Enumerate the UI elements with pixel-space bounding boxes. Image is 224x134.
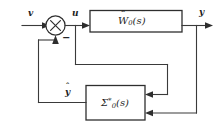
yhat-glyph: ˆ y bbox=[65, 88, 70, 97]
arrowhead-observer-input-lower bbox=[145, 110, 153, 117]
diagram-vector-layer bbox=[0, 0, 224, 134]
arrowhead-observer-input-upper bbox=[145, 91, 153, 98]
label-signal-yhat: ˆ y bbox=[65, 88, 70, 97]
block-diagram-canvas: v u y − ˆ y ˆ W 0(s) Σ*0(s) bbox=[0, 0, 224, 134]
arrowhead-output-y bbox=[205, 22, 213, 29]
plant-base-glyph: ˆ W bbox=[118, 16, 128, 26]
plant-accent: ˆ bbox=[121, 10, 126, 20]
arrowhead-plant-input bbox=[82, 22, 90, 29]
label-signal-v: v bbox=[28, 9, 33, 18]
label-feedback-sign: − bbox=[62, 33, 70, 43]
yhat-accent: ˆ bbox=[65, 83, 69, 92]
label-signal-u: u bbox=[72, 9, 79, 18]
plant-argument: (s) bbox=[133, 15, 146, 26]
observer-argument: (s) bbox=[116, 97, 129, 108]
plant-block-label: ˆ W 0(s) bbox=[118, 16, 146, 27]
label-signal-y: y bbox=[199, 8, 204, 17]
observer-block-label: Σ*0(s) bbox=[101, 97, 129, 109]
